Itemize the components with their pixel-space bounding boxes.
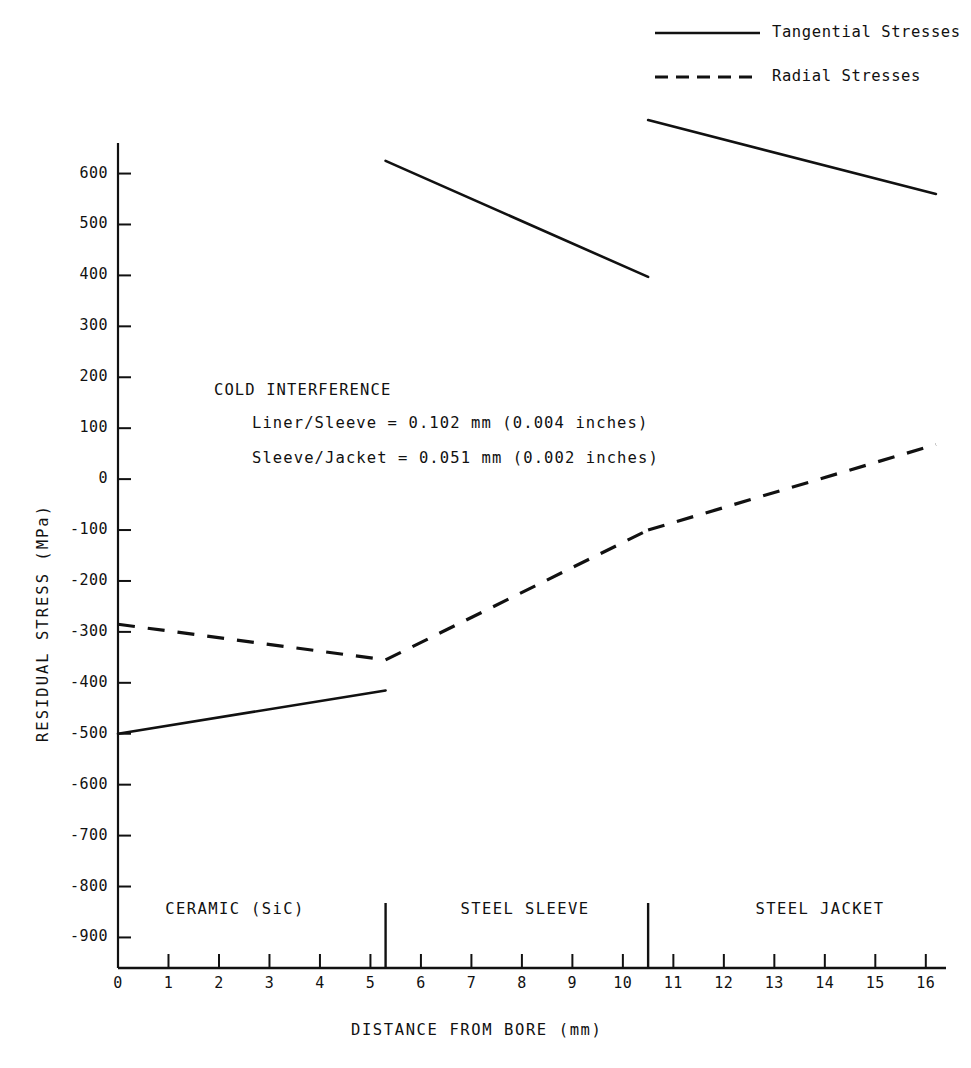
y-tick-label: 600: [30, 164, 108, 182]
y-tick-label: 100: [30, 418, 108, 436]
series-segment: [118, 624, 386, 660]
x-tick-label: 16: [896, 974, 956, 992]
y-tick-label: 400: [30, 265, 108, 283]
annotation-sleeve-jacket: Sleeve/Jacket = 0.051 mm (0.002 inches): [252, 449, 659, 467]
x-axis-ticks: [118, 954, 926, 968]
y-tick-label: -800: [30, 877, 108, 895]
y-tick-label: 500: [30, 214, 108, 232]
annotation-liner-sleeve: Liner/Sleeve = 0.102 mm (0.004 inches): [252, 414, 648, 432]
y-tick-label: -900: [30, 927, 108, 945]
y-tick-label: 300: [30, 316, 108, 334]
x-axis-title: DISTANCE FROM BORE (mm): [351, 1021, 602, 1039]
legend-item-radial: Radial Stresses: [772, 67, 921, 85]
series-segment: [648, 444, 936, 530]
y-axis-title: RESIDUAL STRESS (MPa): [34, 504, 52, 742]
y-tick-label: -700: [30, 826, 108, 844]
series-segment: [386, 161, 649, 277]
legend-swatches: [655, 33, 760, 77]
chart-figure: Tangential Stresses Radial Stresses 6005…: [0, 0, 971, 1068]
annotation-heading: COLD INTERFERENCE: [214, 381, 391, 399]
series-radial-stresses: [118, 444, 936, 659]
series-segment: [386, 530, 649, 660]
y-tick-label: 200: [30, 367, 108, 385]
y-tick-label: -600: [30, 775, 108, 793]
region-label-steel-jacket: STEEL JACKET: [680, 900, 960, 918]
legend-item-tangential: Tangential Stresses: [772, 23, 961, 41]
region-label-steel-sleeve: STEEL SLEEVE: [385, 900, 665, 918]
region-label-ceramic: CERAMIC (SiC): [85, 900, 385, 918]
y-tick-label: 0: [30, 469, 108, 487]
series-segment: [118, 690, 386, 733]
y-axis-ticks: [118, 174, 131, 938]
series-segment: [648, 120, 936, 194]
axis-lines: [118, 143, 946, 968]
